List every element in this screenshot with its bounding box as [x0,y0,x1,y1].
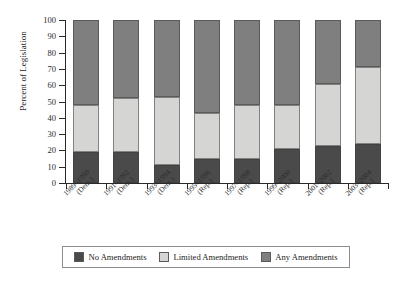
bar-stack[interactable] [355,20,381,183]
legend-swatch-icon [261,252,271,262]
legend-label: No Amendments [88,252,146,262]
y-axis-tick [59,69,65,70]
bar-segment[interactable] [234,20,260,105]
y-axis-tick-label: 10 [16,163,56,171]
bar-segment[interactable] [154,97,180,165]
y-axis-tick-label: 80 [16,49,56,57]
chart-figure: Percent of Legislation 01020304050607080… [0,0,412,285]
y-axis-tick [59,102,65,103]
bar-stack[interactable] [274,20,300,183]
bar-segment[interactable] [274,20,300,105]
y-axis-tick-label: 70 [16,65,56,73]
y-axis-tick [59,134,65,135]
bar-segment[interactable] [113,20,139,98]
bar-segment[interactable] [154,20,180,97]
y-axis-tick [59,36,65,37]
chart-legend: No AmendmentsLimited AmendmentsAny Amend… [62,246,350,268]
y-axis-tick [59,85,65,86]
bar-segment[interactable] [113,98,139,152]
y-axis-tick [59,167,65,168]
bar-stack[interactable] [73,20,99,183]
y-axis-tick-label: 90 [16,32,56,40]
legend-label: Any Amendments [275,252,337,262]
bar-segment[interactable] [194,113,220,159]
bar-segment[interactable] [73,20,99,105]
bar-stack[interactable] [113,20,139,183]
y-axis-tick-label: 100 [16,16,56,24]
bar-stack[interactable] [234,20,260,183]
legend-swatch-icon [159,252,169,262]
y-axis-tick [59,183,65,184]
legend-item[interactable]: Limited Amendments [159,252,248,262]
bar-stack[interactable] [194,20,220,183]
y-axis-tick-label: 20 [16,146,56,154]
legend-item[interactable]: No Amendments [74,252,146,262]
y-axis-tick [59,53,65,54]
legend-item[interactable]: Any Amendments [261,252,337,262]
y-axis-tick-label: 0 [16,179,56,187]
y-axis-tick-label: 40 [16,114,56,122]
y-axis-tick [59,150,65,151]
legend-swatch-icon [74,252,84,262]
y-axis-tick-label: 50 [16,98,56,106]
bar-segment[interactable] [315,20,341,84]
bar-segment[interactable] [355,20,381,67]
bar-stack[interactable] [154,20,180,183]
bar-segment[interactable] [194,20,220,113]
y-axis-tick [59,118,65,119]
y-axis-tick [59,20,65,21]
bar-segment[interactable] [73,105,99,152]
bar-segment[interactable] [355,67,381,144]
bar-stack[interactable] [315,20,341,183]
plot-area [66,20,388,183]
bar-segment[interactable] [234,105,260,159]
bar-segment[interactable] [315,84,341,146]
bar-segment[interactable] [274,105,300,149]
y-axis-tick-label: 60 [16,81,56,89]
y-axis-tick-label: 30 [16,130,56,138]
legend-label: Limited Amendments [173,252,248,262]
x-axis-tick [388,184,389,189]
